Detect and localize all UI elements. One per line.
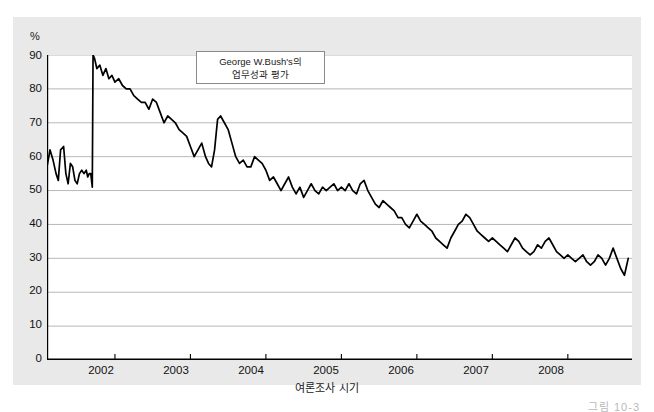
x-tick-label: 2002: [71, 364, 131, 376]
annotation-line-2: 업무성과 평가: [232, 68, 289, 81]
y-tick-label: 40: [8, 218, 42, 229]
chart-svg: [47, 55, 632, 360]
x-axis-title: 여론조사 시기: [0, 379, 654, 395]
x-tick-label: 2007: [446, 364, 506, 376]
y-tick-label: 80: [8, 83, 42, 94]
approval-rating-line: [47, 55, 628, 275]
plot-area: [47, 55, 632, 360]
x-tick-label: 2003: [146, 364, 206, 376]
chart-figure: % 90 80 70 60 50 40 30 20 10 0 2002 2003…: [0, 0, 654, 412]
x-tick-label: 2004: [221, 364, 281, 376]
y-tick-label: 70: [8, 117, 42, 128]
x-tick-label: 2006: [371, 364, 431, 376]
x-tick-label: 2008: [521, 364, 581, 376]
y-tick-label: 30: [8, 252, 42, 263]
y-axis-unit-label: %: [30, 30, 40, 42]
y-tick-label: 90: [8, 50, 42, 61]
y-tick-label: 60: [8, 151, 42, 162]
chart-annotation-box: George W.Bush's의 업무성과 평가: [196, 51, 325, 84]
x-tick-label: 2005: [296, 364, 356, 376]
y-tick-label: 10: [8, 319, 42, 330]
annotation-line-1: George W.Bush's의: [219, 55, 302, 68]
y-tick-label: 50: [8, 184, 42, 195]
figure-caption: 그림 10-3: [0, 398, 640, 412]
y-tick-label: 0: [8, 353, 42, 364]
y-tick-label: 20: [8, 285, 42, 296]
